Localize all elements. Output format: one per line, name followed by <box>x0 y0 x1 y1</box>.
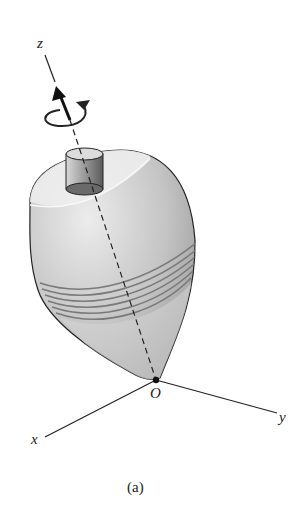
x-axis-label: x <box>31 432 38 447</box>
y-axis <box>156 380 277 413</box>
z-axis-upper <box>45 55 55 82</box>
x-axis <box>45 380 156 437</box>
spinning-top-diagram <box>0 0 307 506</box>
origin-label: O <box>150 386 161 401</box>
top-body <box>20 140 196 380</box>
arrow-up-icon <box>52 86 70 120</box>
origin-point <box>153 377 159 383</box>
z-axis-label: z <box>37 36 43 51</box>
stem-cylinder <box>66 148 103 195</box>
figure-caption: (a) <box>127 480 144 495</box>
y-axis-label: y <box>279 410 286 425</box>
